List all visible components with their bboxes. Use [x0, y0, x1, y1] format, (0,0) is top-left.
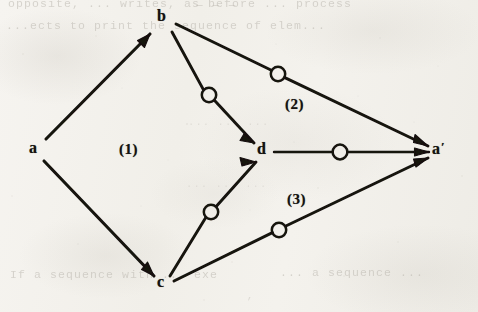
edge-marker-circle-icon: [271, 67, 285, 81]
arrowhead-icon: [415, 148, 430, 156]
node-label-d: d: [257, 141, 266, 157]
edge-marker-circle-icon: [204, 205, 218, 219]
edge-a-b: [46, 34, 150, 139]
scanned-page: opposite, ... writes, as before ... proc…: [0, 0, 478, 312]
edge-marker-circle-icon: [333, 145, 348, 160]
edge-c-d: [170, 158, 256, 277]
node-label-a-prime: a′: [432, 140, 445, 157]
edge-b-aprime: [176, 24, 428, 146]
edge-d-aprime: [274, 145, 429, 160]
region-label-2: (2): [285, 97, 304, 112]
edge-b-d: [172, 32, 254, 143]
node-label-c: c: [157, 274, 164, 290]
node-label-a: a: [29, 140, 37, 156]
edge-marker-circle-icon: [202, 88, 216, 102]
region-label-3: (3): [287, 192, 306, 207]
edge-a-c: [44, 161, 154, 276]
directed-graph: [0, 0, 478, 312]
edge-marker-circle-icon: [272, 223, 286, 237]
arrowhead-icon: [414, 135, 429, 147]
node-label-b: b: [157, 8, 166, 24]
arrowhead-icon: [414, 158, 429, 167]
prime-mark-icon: ′: [441, 139, 445, 154]
region-label-1: (1): [119, 142, 138, 157]
node-aprime-letter: a: [432, 140, 440, 157]
